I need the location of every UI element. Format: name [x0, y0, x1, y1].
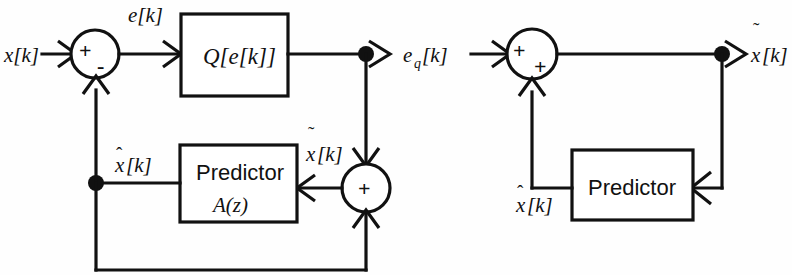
encoder-summer-plus-sign: +: [79, 38, 92, 63]
eq-tail: [k]: [422, 43, 448, 67]
tilde-accent-encoder: ˜: [308, 123, 315, 144]
decoder-output-label: ˜ x [k]: [750, 19, 788, 67]
x-base-encoder-hat: x: [114, 153, 125, 177]
bracket-k-decoder-tilde: [k]: [762, 43, 788, 67]
eq-base: e: [403, 43, 412, 67]
encoder-predictor-transfer-label: A(z): [211, 193, 248, 217]
quantizer-label: Q[e[k]]: [203, 44, 276, 69]
bracket-k-encoder-hat: [k]: [126, 153, 152, 177]
tilde-accent-decoder: ˜: [753, 19, 760, 40]
encoder-prediction-label: ˆ x [k]: [114, 143, 152, 177]
bracket-k-decoder-hat: [k]: [527, 193, 553, 217]
bracket-k-encoder-tilde: [k]: [317, 142, 343, 166]
dpcm-block-diagram: x[k] e[k] Q[e[k]] e q [k] Predictor A(z)…: [0, 0, 792, 275]
decoder-summer-bottom-plus-sign: +: [534, 54, 547, 79]
encoder-error-label: e[k]: [128, 3, 163, 27]
encoder-predictor-label: Predictor: [196, 160, 284, 185]
x-base-decoder-tilde: x: [750, 43, 761, 67]
encoder-summer-minus-sign: -: [97, 53, 104, 78]
eq-subscript: q: [414, 56, 421, 71]
encoder-input-label: x[k]: [3, 43, 39, 67]
x-base-encoder-tilde: x: [305, 142, 316, 166]
encoder-reconstruction-label: ˜ x [k]: [305, 123, 343, 166]
diagram-canvas: x[k] e[k] Q[e[k]] e q [k] Predictor A(z)…: [0, 0, 792, 275]
decoder-summer-top-plus-sign: +: [513, 38, 526, 63]
decoder-predictor-label: Predictor: [588, 175, 676, 200]
x-base-decoder-hat: x: [515, 193, 526, 217]
encoder-quantized-output-label: e q [k]: [403, 43, 448, 71]
encoder-adder-plus-sign: +: [358, 176, 371, 201]
